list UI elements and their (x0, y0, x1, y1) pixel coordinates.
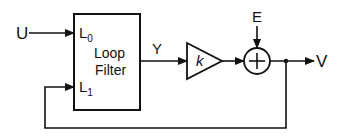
port-l0-label: L0 (79, 24, 93, 44)
loop-filter-line1: Loop (94, 45, 125, 61)
output-v-label: V (316, 52, 328, 71)
gain-label: k (196, 52, 205, 69)
gain-block (187, 43, 222, 79)
signal-y-label: Y (152, 40, 162, 57)
block-diagram: U L0 Loop Filter L1 Y k E V (0, 0, 338, 137)
input-e-label: E (252, 8, 262, 25)
loop-filter-line2: Filter (95, 62, 126, 78)
port-l1-label: L1 (79, 78, 93, 98)
input-u-label: U (16, 24, 28, 43)
